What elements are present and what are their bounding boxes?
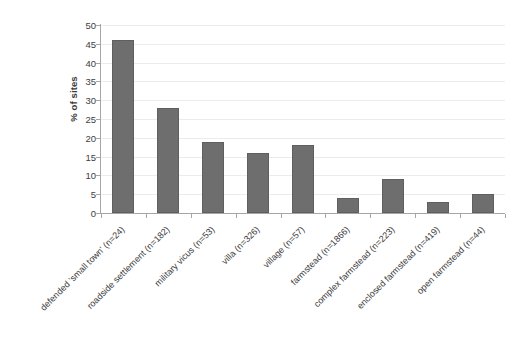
x-axis-tick-mark <box>505 214 506 218</box>
bar <box>112 40 134 213</box>
gridline <box>101 44 505 45</box>
x-axis-line <box>100 213 505 214</box>
x-axis-tick-mark <box>101 214 102 218</box>
bar <box>337 198 359 213</box>
bar <box>247 153 269 213</box>
gridline <box>101 100 505 101</box>
x-axis-tick-mark <box>370 214 371 218</box>
gridline <box>101 25 505 26</box>
gridline <box>101 63 505 64</box>
x-axis-tick-mark <box>191 214 192 218</box>
plot-area <box>101 25 505 213</box>
x-axis-tick-mark <box>146 214 147 218</box>
bar <box>292 145 314 213</box>
x-axis-tick-mark <box>325 214 326 218</box>
x-axis-tick-mark <box>236 214 237 218</box>
x-axis-tick-mark <box>460 214 461 218</box>
bar-chart-figure: % of sites 05101520253035404550 defended… <box>0 0 524 360</box>
bar <box>157 108 179 213</box>
x-axis-tick-mark <box>281 214 282 218</box>
y-axis-line <box>100 24 101 214</box>
bar <box>202 142 224 213</box>
gridline <box>101 81 505 82</box>
bar <box>382 179 404 213</box>
bar <box>472 194 494 213</box>
x-axis-tick-mark <box>415 214 416 218</box>
bar <box>427 202 449 213</box>
